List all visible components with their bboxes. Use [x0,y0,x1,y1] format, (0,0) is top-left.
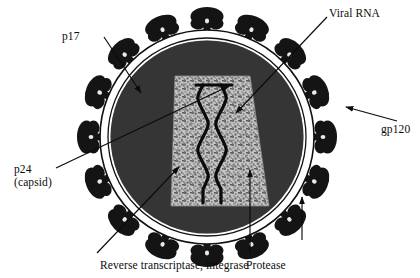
label-protease: Protease [246,259,286,272]
label-capsid-text: (capsid) [14,176,52,189]
gp120-spike [312,121,337,154]
label-gp120: gp120 [381,123,410,136]
gp120-leader [346,107,397,121]
figure-canvas: p17 Viral RNA gp120 p24 (capsid) Reverse… [0,0,420,278]
label-gp120-text: gp120 [381,123,410,135]
label-rti-text: Reverse transcriptase, integrase [100,259,248,271]
label-p17: p17 [62,30,80,43]
label-viral-rna-text: Viral RNA [329,7,380,19]
label-reverse-transcriptase-integrase: Reverse transcriptase, integrase [100,259,248,272]
label-p24-capsid: p24 (capsid) [14,163,52,188]
label-p24-text: p24 [14,163,52,176]
label-viral-rna: Viral RNA [329,7,380,20]
label-p17-text: p17 [62,30,80,42]
label-protease-text: Protease [246,259,286,271]
gp120-spike [191,7,224,32]
